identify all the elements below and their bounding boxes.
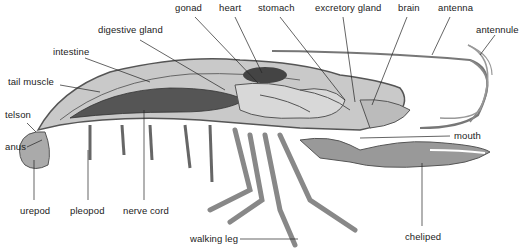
label-gonad: gonad bbox=[175, 3, 202, 13]
label-cheliped: cheliped bbox=[405, 232, 441, 242]
label-intestine: intestine bbox=[53, 47, 89, 57]
label-tail-muscle: tail muscle bbox=[8, 77, 54, 87]
lobster-anatomy-diagram: gonad heart stomach excretory gland brai… bbox=[0, 0, 519, 251]
label-anus: anus bbox=[5, 142, 26, 152]
label-digestive-gland: digestive gland bbox=[98, 25, 163, 35]
label-stomach: stomach bbox=[258, 3, 295, 13]
label-heart: heart bbox=[219, 3, 241, 13]
label-pleopod: pleopod bbox=[70, 206, 105, 216]
label-antenna: antenna bbox=[438, 3, 473, 13]
label-walking-leg: walking leg bbox=[190, 234, 238, 244]
label-telson: telson bbox=[5, 110, 31, 120]
label-mouth: mouth bbox=[454, 131, 481, 141]
label-urepod: urepod bbox=[20, 206, 50, 216]
label-antennule: antennule bbox=[476, 25, 519, 35]
label-nerve-cord: nerve cord bbox=[123, 206, 169, 216]
label-brain: brain bbox=[398, 3, 420, 13]
label-excretory-gland: excretory gland bbox=[315, 3, 381, 13]
